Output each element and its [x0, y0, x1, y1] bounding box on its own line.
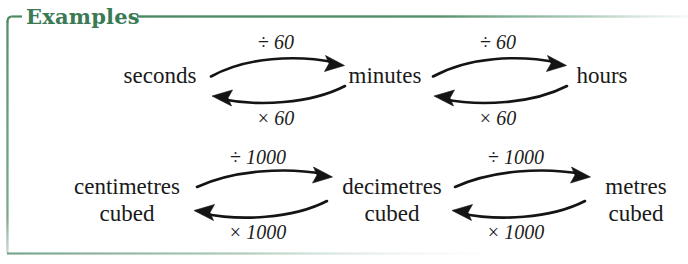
oplabel-minutes-to-seconds-value: 60 [274, 107, 294, 129]
arrow-dm3-to-cm3-curve [203, 201, 327, 218]
multiply-icon: × [230, 221, 241, 243]
node-centimetres-cubed: centimetres cubed [62, 173, 192, 227]
oplabel-seconds-to-minutes: ÷ 60 [228, 31, 324, 53]
conversion-diagram: seconds minutes hours centimetres cubed … [0, 0, 688, 264]
arrow-dm3-to-cm3-head [194, 205, 215, 221]
oplabel-minutes-to-hours-value: 60 [496, 31, 516, 53]
node-hours: hours [566, 62, 638, 89]
multiply-icon: × [488, 221, 499, 243]
node-hours-label: hours [576, 63, 627, 88]
node-decimetres-cubed-label: cubed [331, 200, 453, 227]
oplabel-cm3-to-dm3: ÷ 1000 [200, 146, 316, 168]
oplabel-m3-to-dm3-value: 1000 [504, 221, 544, 243]
arrow-minutes-to-seconds-curve [221, 86, 345, 103]
arrow-seconds-to-minutes-curve [211, 58, 336, 76]
arrow-minutes-to-hours-curve [433, 58, 558, 76]
node-metres-cubed-label: cubed [592, 200, 680, 227]
arrow-m3-to-dm3-head [452, 205, 473, 221]
node-minutes: minutes [337, 62, 433, 89]
oplabel-minutes-to-seconds: × 60 [228, 107, 324, 129]
divide-icon: ÷ [258, 31, 269, 53]
arrow-hours-to-minutes-head [434, 90, 455, 106]
oplabel-dm3-to-cm3: × 1000 [200, 221, 316, 243]
node-minutes-label: minutes [349, 63, 422, 88]
oplabel-minutes-to-hours: ÷ 60 [450, 31, 546, 53]
arrow-dm3-to-m3-head [571, 167, 591, 183]
node-metres-label: metres [605, 174, 666, 199]
multiply-icon: × [258, 107, 269, 129]
node-centimetres-cubed-label: cubed [62, 200, 192, 227]
oplabel-m3-to-dm3: × 1000 [458, 221, 574, 243]
arrow-cm3-to-dm3-head [313, 167, 333, 183]
multiply-icon: × [480, 107, 491, 129]
divide-icon: ÷ [480, 31, 491, 53]
node-metres-cubed: metres cubed [592, 173, 680, 227]
arrow-dm3-to-m3-curve [455, 170, 582, 187]
oplabel-dm3-to-m3: ÷ 1000 [458, 146, 574, 168]
oplabel-cm3-to-dm3-value: 1000 [246, 146, 286, 168]
oplabel-hours-to-minutes: × 60 [450, 107, 546, 129]
examples-panel: Examples [0, 0, 688, 264]
arrow-hours-to-minutes-curve [443, 86, 567, 103]
oplabel-dm3-to-cm3-value: 1000 [246, 221, 286, 243]
node-seconds-label: seconds [124, 63, 197, 88]
oplabel-dm3-to-m3-value: 1000 [504, 146, 544, 168]
divide-icon: ÷ [230, 146, 241, 168]
oplabel-hours-to-minutes-value: 60 [496, 107, 516, 129]
arrow-minutes-to-hours-head [547, 56, 567, 72]
node-seconds: seconds [110, 62, 210, 89]
node-decimetres-cubed: decimetres cubed [331, 173, 453, 227]
arrow-m3-to-dm3-curve [461, 201, 585, 218]
oplabel-seconds-to-minutes-value: 60 [274, 31, 294, 53]
node-centimetres-label: centimetres [74, 174, 180, 199]
node-decimetres-label: decimetres [342, 174, 442, 199]
divide-icon: ÷ [488, 146, 499, 168]
arrow-minutes-to-seconds-head [212, 90, 233, 106]
arrow-cm3-to-dm3-curve [197, 170, 324, 187]
